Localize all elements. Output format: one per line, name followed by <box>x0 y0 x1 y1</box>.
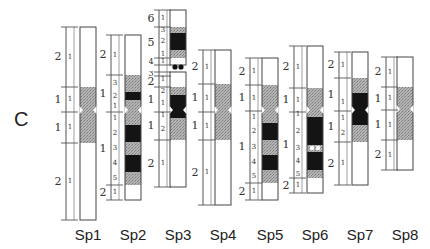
region-number: 1 <box>328 88 335 101</box>
species-label-sp5: Sp5 <box>248 226 292 243</box>
band-number: 5 <box>113 174 117 182</box>
region-number: 1 <box>239 91 246 104</box>
band <box>262 155 278 170</box>
region-number: 2 <box>148 75 155 88</box>
band <box>262 58 278 85</box>
band-number: 1 <box>388 68 392 76</box>
band <box>307 178 323 193</box>
region-number: 1 <box>148 93 155 106</box>
species-label-sp3: Sp3 <box>156 226 200 243</box>
band <box>262 140 278 155</box>
band-number: 2 <box>161 125 165 133</box>
band <box>170 118 186 140</box>
chromosome-sp3: 6543211213211121121 <box>148 10 187 187</box>
band-number: 1 <box>296 181 300 189</box>
band-number: 1 <box>68 123 72 131</box>
band-number: 1 <box>113 51 117 59</box>
band <box>125 155 141 172</box>
band-number: 3 <box>113 79 117 87</box>
chromosome-sp7: 211211121 <box>328 52 369 185</box>
chromosome-sp6: 211211123451 <box>283 46 324 193</box>
band <box>215 112 231 140</box>
band <box>170 58 186 65</box>
chromosome-sp4: 21121111 <box>192 50 232 205</box>
band <box>307 112 323 117</box>
band <box>307 152 323 170</box>
band-number: 3 <box>296 144 300 152</box>
region-number: 4 <box>148 57 153 66</box>
region-number: 1 <box>283 93 290 106</box>
band <box>307 117 323 145</box>
band-number: 2 <box>113 92 117 100</box>
region-number: 1 <box>192 91 199 104</box>
region-number: 2 <box>239 65 246 78</box>
band-number: 1 <box>161 75 165 83</box>
band-number: 1 <box>161 57 165 65</box>
band <box>307 88 323 112</box>
band <box>352 93 368 111</box>
chromosome-sp8: 21121111 <box>375 57 414 170</box>
band <box>170 72 186 87</box>
chromosome-sp2: 21121321123451 <box>100 35 142 200</box>
band-number: 2 <box>113 129 117 137</box>
species-label-sp7: Sp7 <box>338 226 382 243</box>
region-number: 2 <box>100 48 107 61</box>
band-number: 1 <box>161 111 165 119</box>
band-number: 1 <box>388 121 392 129</box>
band <box>397 110 413 140</box>
species-label-sp6: Sp6 <box>293 226 337 243</box>
band-number: 5 <box>296 170 300 178</box>
band <box>262 183 278 200</box>
band-number: 1 <box>161 14 165 22</box>
band-number: 1 <box>113 114 117 122</box>
band <box>80 112 96 143</box>
band-number: 1 <box>341 98 345 106</box>
band-number: 2 <box>296 127 300 135</box>
region-number: 2 <box>148 157 155 170</box>
species-label-sp8: Sp8 <box>383 226 427 243</box>
region-number: 1 <box>100 142 107 155</box>
band-number: 1 <box>161 159 165 167</box>
region-number: 2 <box>328 157 335 170</box>
band <box>215 50 231 84</box>
species-label-sp4: Sp4 <box>201 226 245 243</box>
region-number: 2 <box>192 166 199 179</box>
region-number: 2 <box>192 60 199 73</box>
band-number: 1 <box>205 94 209 102</box>
region-number: 2 <box>100 186 107 199</box>
band-number: 1 <box>113 188 117 196</box>
white-dot <box>310 146 314 150</box>
band <box>352 52 368 78</box>
band-number: 1 <box>205 63 209 71</box>
band <box>80 87 96 112</box>
band-number: 1 <box>341 61 345 69</box>
band <box>352 125 368 142</box>
band <box>170 87 186 95</box>
band <box>125 125 141 142</box>
band <box>307 145 323 152</box>
band <box>352 111 368 125</box>
region-number: 1 <box>239 140 246 153</box>
band-number: 2 <box>161 37 165 45</box>
region-number: 1 <box>192 119 199 132</box>
band-number: 1 <box>205 168 209 176</box>
chromosome-layer: 2112111121121321123451654321121321112112… <box>55 10 414 220</box>
chromosome-sp1: 21121111 <box>55 27 97 220</box>
band <box>125 92 141 100</box>
region-number: 1 <box>148 119 155 132</box>
band <box>125 172 141 185</box>
region-number: 1 <box>55 121 62 134</box>
band <box>352 78 368 93</box>
band-number: 1 <box>388 151 392 159</box>
band-number: 1 <box>341 114 345 122</box>
band <box>215 84 231 112</box>
band-number: 3 <box>161 26 165 34</box>
band <box>262 123 278 140</box>
band <box>397 57 413 87</box>
region-number: 2 <box>55 175 62 188</box>
band-number: 3 <box>252 143 256 151</box>
band <box>80 143 96 220</box>
band <box>125 142 141 155</box>
band-number: 1 <box>252 187 256 195</box>
white-dot <box>316 146 320 150</box>
